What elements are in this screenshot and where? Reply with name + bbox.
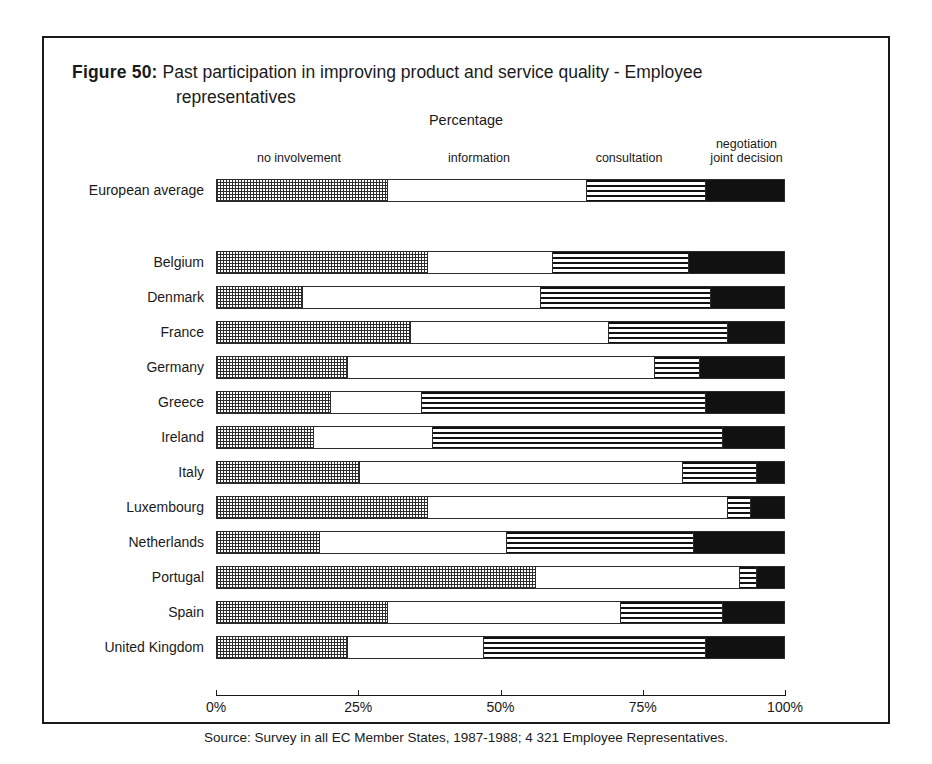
segment-information — [427, 497, 728, 518]
legend-label-no-involvement: no involvement — [219, 151, 379, 165]
segment-negotiation-joint-decision — [705, 637, 784, 658]
segment-consultation — [727, 497, 750, 518]
chart-row: Netherlands — [44, 531, 888, 555]
segment-information — [535, 567, 739, 588]
chart-row: Portugal — [44, 566, 888, 590]
segment-no-involvement — [217, 322, 410, 343]
segment-no-involvement — [217, 637, 347, 658]
segment-negotiation-joint-decision — [688, 252, 784, 273]
stacked-bar — [216, 496, 785, 519]
x-axis-tick-label: 100% — [755, 699, 815, 715]
chart-row: Luxembourg — [44, 496, 888, 520]
segment-consultation — [552, 252, 688, 273]
segment-consultation — [540, 287, 710, 308]
row-label: Belgium — [44, 254, 204, 270]
segment-negotiation-joint-decision — [722, 602, 784, 623]
x-axis-tick-label: 0% — [186, 699, 246, 715]
chart-row: Greece — [44, 391, 888, 415]
stacked-bar — [216, 566, 785, 589]
x-axis-tick — [785, 690, 786, 696]
x-axis-tick-label: 25% — [328, 699, 388, 715]
segment-information — [359, 462, 682, 483]
stacked-bar — [216, 426, 785, 449]
segment-consultation — [586, 180, 705, 201]
stacked-bar — [216, 636, 785, 659]
row-label: Spain — [44, 604, 204, 620]
segment-no-involvement — [217, 180, 387, 201]
legend-negotiation-line-1: negotiation — [716, 137, 777, 151]
segment-consultation — [432, 427, 721, 448]
segment-consultation — [682, 462, 756, 483]
segment-no-involvement — [217, 357, 347, 378]
segment-negotiation-joint-decision — [693, 532, 784, 553]
legend-label-consultation: consultation — [564, 151, 694, 165]
segment-information — [319, 532, 506, 553]
row-label: Luxembourg — [44, 499, 204, 515]
chart-row: France — [44, 321, 888, 345]
stacked-bar — [216, 391, 785, 414]
chart-row: United Kingdom — [44, 636, 888, 660]
stacked-bar — [216, 356, 785, 379]
stacked-bar — [216, 251, 785, 274]
row-label: Italy — [44, 464, 204, 480]
segment-no-involvement — [217, 532, 319, 553]
segment-no-involvement — [217, 602, 387, 623]
chart-row: Belgium — [44, 251, 888, 275]
segment-no-involvement — [217, 392, 330, 413]
stacked-bar — [216, 321, 785, 344]
row-label: Greece — [44, 394, 204, 410]
row-label: Portugal — [44, 569, 204, 585]
segment-no-involvement — [217, 497, 427, 518]
row-label: Netherlands — [44, 534, 204, 550]
stacked-bar — [216, 286, 785, 309]
segment-no-involvement — [217, 287, 302, 308]
chart-row: Ireland — [44, 426, 888, 450]
x-axis-tick — [216, 690, 217, 696]
stacked-bar-chart: no involvement information consultation … — [44, 38, 888, 722]
segment-consultation — [620, 602, 722, 623]
stacked-bar — [216, 601, 785, 624]
segment-negotiation-joint-decision — [699, 357, 784, 378]
x-axis-tick-label: 75% — [613, 699, 673, 715]
segment-no-involvement — [217, 462, 359, 483]
x-axis-tick — [358, 690, 359, 696]
stacked-bar — [216, 531, 785, 554]
segment-negotiation-joint-decision — [756, 567, 784, 588]
segment-negotiation-joint-decision — [705, 180, 784, 201]
segment-information — [302, 287, 540, 308]
segment-information — [330, 392, 421, 413]
segment-information — [410, 322, 608, 343]
segment-consultation — [739, 567, 756, 588]
stacked-bar — [216, 461, 785, 484]
x-axis-tick — [643, 690, 644, 696]
source-note: Source: Survey in all EC Member States, … — [44, 730, 888, 745]
segment-consultation — [506, 532, 693, 553]
segment-information — [427, 252, 552, 273]
segment-no-involvement — [217, 252, 427, 273]
row-label: France — [44, 324, 204, 340]
segment-consultation — [421, 392, 705, 413]
chart-row: Denmark — [44, 286, 888, 310]
segment-information — [347, 637, 483, 658]
x-axis-tick — [501, 690, 502, 696]
segment-information — [387, 180, 585, 201]
legend-label-negotiation: negotiation joint decision — [679, 137, 814, 165]
legend-negotiation-line-2: joint decision — [710, 151, 782, 165]
row-label: European average — [44, 182, 204, 198]
chart-row: European average — [44, 179, 888, 203]
segment-negotiation-joint-decision — [705, 392, 784, 413]
segment-no-involvement — [217, 427, 313, 448]
chart-row: Germany — [44, 356, 888, 380]
figure-frame: Figure 50: Past participation in improvi… — [42, 36, 890, 724]
chart-row: Italy — [44, 461, 888, 485]
segment-information — [387, 602, 619, 623]
segment-negotiation-joint-decision — [727, 322, 784, 343]
chart-row: Spain — [44, 601, 888, 625]
row-label: Germany — [44, 359, 204, 375]
row-label: Ireland — [44, 429, 204, 445]
segment-information — [313, 427, 432, 448]
row-label: Denmark — [44, 289, 204, 305]
segment-negotiation-joint-decision — [722, 427, 784, 448]
segment-negotiation-joint-decision — [750, 497, 784, 518]
legend-label-information: information — [419, 151, 539, 165]
